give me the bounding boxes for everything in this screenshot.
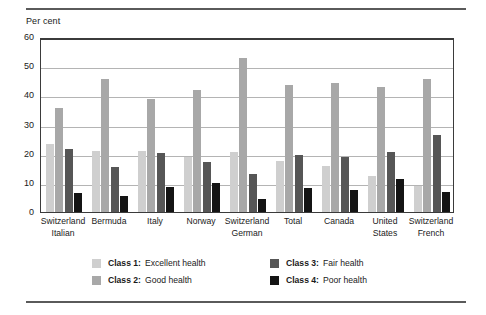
bar-class-3[interactable]	[387, 152, 395, 212]
legend-swatch	[92, 259, 101, 268]
bar-class-2[interactable]	[331, 83, 339, 212]
legend-item[interactable]: Class 3:Fair health	[270, 258, 364, 268]
x-category-label-line2: Italian	[32, 228, 94, 240]
x-category-label-line1: Bermuda	[92, 216, 127, 226]
bar-series-container	[41, 39, 453, 212]
plot-area	[40, 38, 454, 213]
bar-group	[133, 39, 179, 212]
bar-class-2[interactable]	[423, 79, 431, 212]
bar-class-4[interactable]	[442, 192, 450, 212]
legend-item-key: Class 4:	[286, 275, 319, 285]
bar-class-1[interactable]	[414, 186, 422, 212]
y-tick-label: 40	[4, 90, 34, 100]
y-tick-label: 50	[4, 61, 34, 71]
chart-figure: Per cent 0102030405060 SwitzerlandItalia…	[0, 0, 486, 315]
x-category-label-line2: German	[216, 228, 278, 240]
bar-group	[87, 39, 133, 212]
bar-class-4[interactable]	[350, 190, 358, 212]
legend-item-label: Fair health	[323, 258, 364, 268]
bar-group	[271, 39, 317, 212]
legend-item[interactable]: Class 4:Poor health	[270, 275, 367, 285]
bar-class-1[interactable]	[368, 176, 376, 212]
bar-class-4[interactable]	[120, 196, 128, 212]
top-divider-rule	[26, 8, 466, 10]
y-tick-label: 20	[4, 149, 34, 159]
bar-class-3[interactable]	[157, 153, 165, 212]
legend-item-key: Class 2:	[108, 275, 141, 285]
bar-class-1[interactable]	[46, 144, 54, 212]
bar-class-2[interactable]	[285, 85, 293, 212]
x-category-label: SwitzerlandFrench	[400, 216, 462, 239]
bar-class-1[interactable]	[184, 157, 192, 212]
bar-class-3[interactable]	[295, 155, 303, 212]
bar-class-3[interactable]	[249, 174, 257, 212]
x-category-label-line1: Norway	[186, 216, 215, 226]
legend-swatch	[270, 276, 279, 285]
bar-class-3[interactable]	[203, 162, 211, 212]
bar-class-4[interactable]	[74, 193, 82, 212]
bottom-divider-rule	[26, 301, 466, 303]
y-tick-label: 10	[4, 178, 34, 188]
bar-class-2[interactable]	[55, 108, 63, 212]
bar-class-2[interactable]	[239, 58, 247, 212]
x-category-label-line1: Italy	[147, 216, 163, 226]
bar-class-1[interactable]	[230, 152, 238, 212]
y-tick-label: 30	[4, 120, 34, 130]
bar-class-4[interactable]	[396, 179, 404, 212]
bar-class-3[interactable]	[111, 167, 119, 213]
legend-item[interactable]: Class 1:Excellent health	[92, 258, 206, 268]
bar-class-1[interactable]	[92, 151, 100, 212]
bar-class-3[interactable]	[65, 149, 73, 212]
x-axis-category-labels: SwitzerlandItalianBermudaItalyNorwaySwit…	[40, 216, 454, 252]
bar-group	[363, 39, 409, 212]
bar-class-3[interactable]	[433, 135, 441, 212]
bar-class-2[interactable]	[147, 99, 155, 212]
bar-class-3[interactable]	[341, 157, 349, 212]
bar-class-4[interactable]	[258, 199, 266, 212]
bar-class-1[interactable]	[322, 166, 330, 212]
bar-group	[409, 39, 455, 212]
legend-item-label: Poor health	[323, 275, 367, 285]
legend-item-key: Class 3:	[286, 258, 319, 268]
bar-class-4[interactable]	[166, 187, 174, 212]
bar-group	[41, 39, 87, 212]
y-tick-label: 60	[4, 32, 34, 42]
legend-swatch	[270, 259, 279, 268]
x-category-label-line1: Total	[284, 216, 302, 226]
bar-group	[317, 39, 363, 212]
x-category-label-line1: United	[373, 216, 398, 226]
chart-legend: Class 1:Excellent healthClass 2:Good hea…	[92, 258, 422, 292]
bar-class-4[interactable]	[304, 188, 312, 212]
x-category-label-line1: Switzerland	[409, 216, 453, 226]
y-tick-label: 0	[4, 207, 34, 217]
legend-item-label: Excellent health	[145, 258, 206, 268]
x-category-label-line2: French	[400, 228, 462, 240]
bar-class-2[interactable]	[101, 79, 109, 212]
y-axis-title: Per cent	[26, 16, 60, 26]
legend-item-key: Class 1:	[108, 258, 141, 268]
bar-class-2[interactable]	[377, 87, 385, 212]
legend-item[interactable]: Class 2:Good health	[92, 275, 192, 285]
x-category-label-line1: Canada	[324, 216, 354, 226]
legend-swatch	[92, 276, 101, 285]
legend-item-label: Good health	[145, 275, 192, 285]
bar-class-4[interactable]	[212, 183, 220, 212]
bar-group	[179, 39, 225, 212]
bar-group	[225, 39, 271, 212]
bar-class-1[interactable]	[138, 151, 146, 212]
bar-class-1[interactable]	[276, 161, 284, 212]
bar-class-2[interactable]	[193, 90, 201, 213]
